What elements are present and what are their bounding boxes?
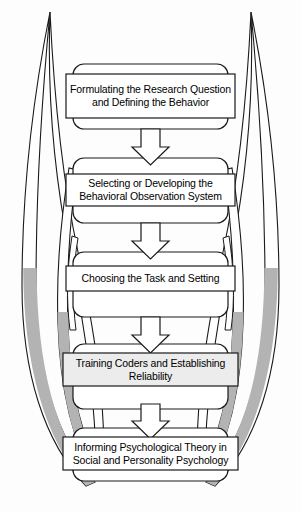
stage-textbox-2[interactable]	[66, 174, 235, 206]
figure-canvas: Formulating the Research Question and De…	[0, 0, 301, 512]
flowchart-illustration	[0, 0, 301, 512]
stage-textbox-1[interactable]	[66, 74, 235, 118]
stage-textbox-4[interactable]	[63, 353, 238, 386]
stage-textbox-3[interactable]	[66, 266, 235, 291]
stage-textbox-5[interactable]	[63, 437, 238, 470]
